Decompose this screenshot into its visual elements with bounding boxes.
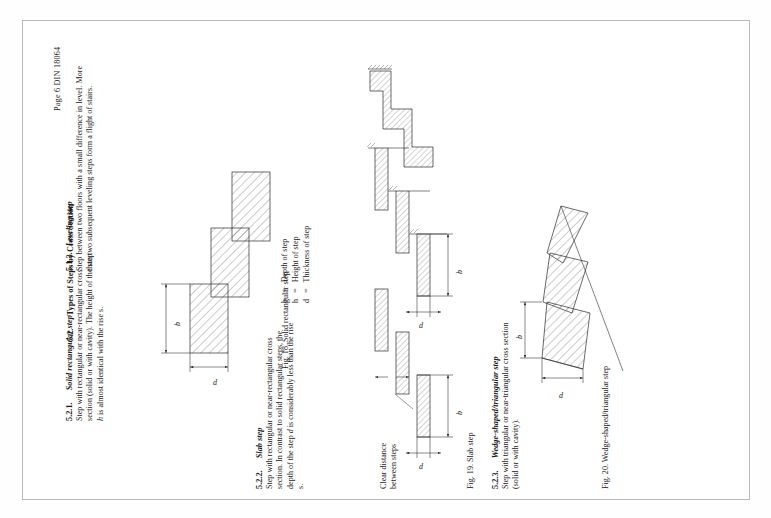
section-5-2-1-line1: Step with rectangular or near-rectangula… [75, 206, 85, 421]
section-5-2-2-line3b: is considerably less than the rise [286, 323, 295, 430]
technical-drawings [23, 21, 749, 499]
fig19-dim-b-bot: b [455, 411, 464, 415]
fig20-caption: Fig. 20. Wedge-shaped/triangular step [601, 366, 610, 489]
fig20-dim-b: b [515, 335, 524, 339]
fig18-drawing [161, 172, 270, 372]
section-5-2-3-number: 5.2.3. [491, 470, 500, 489]
fig19-annotation-line1: Clear distance [379, 443, 389, 489]
section-5-2-3-title: Wedge-shaped/triangular step [491, 356, 500, 458]
section-5-2-3-line1: Step with triangular or near-triangular … [501, 274, 511, 489]
section-5-2-2-line3a: depth of the step [286, 433, 295, 489]
section-5-2-2-line4: s. [296, 274, 306, 489]
section-5-2-2: 5.2.2. Slab step Step with rectangular o… [255, 274, 307, 489]
section-5-2-3: 5.2.3. Wedge-shaped/triangular step Step… [491, 274, 522, 489]
fig19-dim-b-mid: b [455, 270, 464, 274]
fig19-annotation-line2: between steps [389, 443, 399, 489]
fig20-drawing [520, 206, 623, 383]
section-5-2-2-title: Slab step [255, 428, 264, 459]
section-5-2-2-sym: d [286, 429, 295, 433]
fig19-dim-d-mid: d [419, 321, 423, 330]
fig18-dim-b: b [173, 322, 182, 326]
fig20-dim-d: d [559, 391, 563, 400]
fig19-drawing [367, 65, 453, 458]
fig18-dim-d: d [213, 378, 217, 387]
section-5-2-1-title: Solid rectangular step [65, 315, 74, 390]
section-5-2-2-line2: section. In contrast to solid rectangula… [275, 274, 285, 489]
section-5-2-1-line3: is almost identical with the rise s. [96, 307, 105, 417]
page-header: Page 6 DIN 18064 [53, 47, 62, 111]
scanned-page-canvas: Page 6 DIN 18064 5.1.3. Leveling step St… [0, 0, 771, 518]
section-5-2-2-number: 5.2.2. [255, 470, 264, 489]
section-5-2-1-sym: h [96, 417, 105, 421]
fig19-annotation: Clear distance between steps [379, 443, 400, 489]
fig19-dim-d-bot: d [419, 462, 423, 471]
fig19-caption: Fig. 19. Slab step [466, 433, 475, 489]
section-5-2-1-line2: section (solid or with cavity). The heig… [85, 206, 95, 421]
section-5-2-3-line2: (solid or with cavity). [511, 274, 521, 489]
section-5-2-1: 5.2.1. Solid rectangular step Step with … [65, 206, 106, 421]
document-page: Page 6 DIN 18064 5.1.3. Leveling step St… [22, 20, 750, 500]
section-5-2-1-number: 5.2.1. [65, 402, 74, 421]
section-5-2-2-line1: Step with rectangular or near-rectangula… [265, 274, 275, 489]
